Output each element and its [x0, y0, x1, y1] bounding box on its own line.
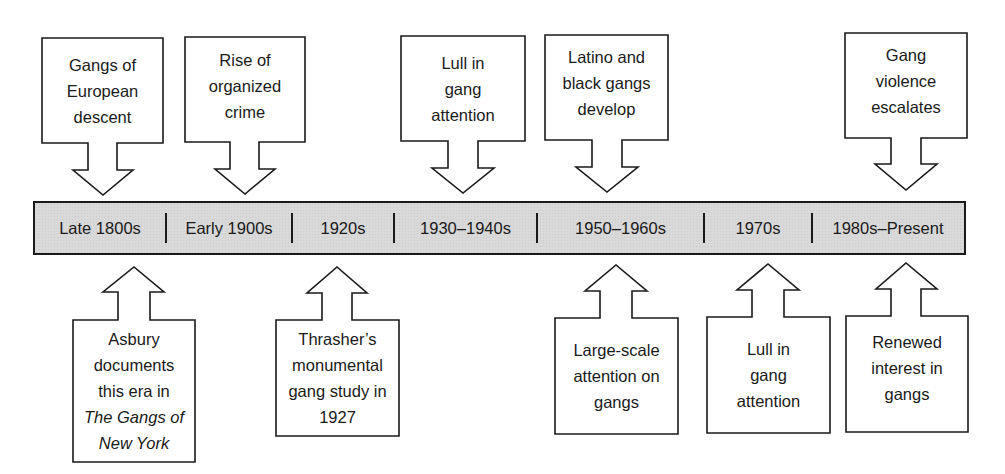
era-1950-1960s: 1950–1960s: [538, 203, 703, 253]
callout-line: Thrasher’s: [288, 326, 386, 352]
callout-line: attention: [431, 102, 494, 128]
gang-history-timeline-diagram: Gangs of European descent Rise of organi…: [0, 0, 1005, 474]
bottom-callout-thrasher: Thrasher’s monumental gang study in 1927: [276, 320, 399, 436]
callout-line: Gang: [871, 42, 941, 68]
book-title-line: The Gangs of: [84, 404, 184, 430]
callout-line: monumental: [288, 352, 386, 378]
callout-line: documents: [84, 352, 184, 378]
bottom-callout-lull-in-gang-attention: Lull in gang attention: [707, 317, 830, 433]
callout-line: 1927: [288, 404, 386, 430]
callout-line: this era in: [84, 378, 184, 404]
callout-line: gangs: [871, 381, 943, 407]
callout-line: European: [67, 78, 139, 104]
callout-line: organized: [209, 73, 281, 99]
callout-line: gangs: [573, 389, 659, 415]
callout-line: interest in: [871, 355, 943, 381]
callout-line: gang: [431, 76, 494, 102]
callout-line: escalates: [871, 94, 941, 120]
top-callout-rise-of-organized-crime: Rise of organized crime: [185, 37, 305, 134]
era-1930-1940s: 1930–1940s: [395, 203, 536, 253]
bottom-callout-large-scale-attention: Large-scale attention on gangs: [555, 318, 678, 434]
bottom-callout-asbury: Asbury documents this era in The Gangs o…: [73, 320, 195, 462]
callout-line: Large-scale: [573, 337, 659, 363]
timeline-bar: Late 1800s Early 1900s 1920s 1930–1940s …: [33, 201, 966, 255]
callout-line: attention on: [573, 363, 659, 389]
callout-line: Rise of: [209, 47, 281, 73]
callout-line: descent: [67, 104, 139, 130]
callout-line: violence: [871, 68, 941, 94]
callout-line: crime: [209, 99, 281, 125]
era-1970s: 1970s: [705, 203, 811, 253]
book-title-line: New York: [84, 430, 184, 456]
era-1920s: 1920s: [293, 203, 393, 253]
top-callout-gang-violence-escalates: Gang violence escalates: [845, 33, 967, 129]
callout-line: Asbury: [84, 326, 184, 352]
era-early-1900s: Early 1900s: [167, 203, 291, 253]
era-1980s-present: 1980s–Present: [813, 203, 963, 253]
era-late-1800s: Late 1800s: [35, 203, 165, 253]
callout-line: gang study in: [288, 378, 386, 404]
callout-line: black gangs: [562, 70, 650, 96]
callout-line: Latino and: [562, 44, 650, 70]
callout-line: Renewed: [871, 329, 943, 355]
callout-line: develop: [562, 96, 650, 122]
top-callout-lull-in-gang-attention: Lull in gang attention: [401, 36, 525, 141]
top-callout-latino-and-black-gangs-develop: Latino and black gangs develop: [545, 35, 668, 130]
bottom-callout-renewed-interest: Renewed interest in gangs: [846, 316, 968, 420]
top-callout-gangs-of-european-descent: Gangs of European descent: [42, 38, 163, 143]
callout-line: Lull in: [737, 336, 800, 362]
callout-line: Gangs of: [67, 52, 139, 78]
callout-line: Lull in: [431, 50, 494, 76]
callout-line: attention: [737, 388, 800, 414]
callout-line: gang: [737, 362, 800, 388]
